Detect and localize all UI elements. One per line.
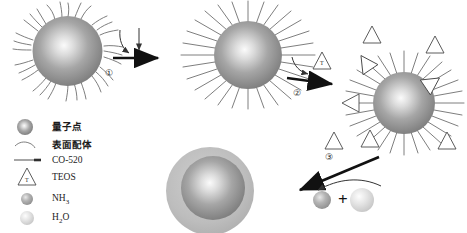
nh3-subscript: 3: [66, 198, 70, 206]
teos-triangle-icon: [438, 132, 456, 149]
reaction-arrow-1: [113, 28, 158, 58]
teos-triangle-icon: [426, 36, 444, 53]
teos-triangle-icon: [363, 26, 381, 43]
legend-label-nh3: NH3: [52, 194, 69, 206]
reaction-arrow-3: [300, 157, 381, 190]
legend-label-h2o: H2O: [52, 213, 69, 225]
quantum-dot-core: [33, 16, 103, 86]
nh3-sphere-icon: [21, 193, 33, 205]
step-3-label: ③: [325, 153, 333, 162]
nh3-base: NH: [52, 193, 66, 203]
quantum-dot-core: [214, 21, 282, 89]
h2o-sphere-icon: [20, 211, 34, 225]
structure-qd-with-teos: [325, 26, 464, 155]
legend-teos-triangle-glyph: T: [25, 177, 29, 183]
legend-label-quantum-dot: 量子点: [52, 122, 82, 132]
legend-label-surface-ligand: 表面配体: [52, 140, 92, 150]
legend-label-teos: TEOS: [52, 173, 76, 183]
quantum-dot-sphere-icon: [17, 119, 33, 135]
teos-triangle-icon: [354, 51, 378, 75]
surface-ligand-curve-icon: [15, 142, 35, 148]
teos-triangle-icon: [325, 132, 343, 149]
teos-triangle-glyph: T: [320, 60, 324, 66]
scheme-canvas: [0, 0, 467, 233]
teos-triangle-icon: [342, 94, 359, 112]
legend-label-co520: CO-520: [52, 156, 83, 166]
structure-qd-with-surface-ligands: [13, 2, 123, 101]
structure-silica-coated-quantum-dot: [166, 147, 254, 233]
legend-icons: [14, 119, 41, 225]
step-1-label: ①: [105, 69, 113, 78]
plus-operator: +: [338, 191, 348, 208]
teos-triangle-icon: [361, 130, 379, 147]
h2o-sphere-icon: [350, 188, 374, 212]
h2o-h: H: [52, 212, 59, 222]
quantum-dot-core: [181, 156, 245, 220]
step-2-label: ②: [293, 89, 301, 98]
reaction-scheme-figure: ① ② ③ T + 量子点 表面配体 CO-520 TEOS NH3 H2O T: [0, 0, 467, 233]
reaction-arrow-2: [287, 52, 332, 84]
nh3-sphere-icon: [313, 191, 331, 209]
h2o-o: O: [62, 212, 69, 222]
